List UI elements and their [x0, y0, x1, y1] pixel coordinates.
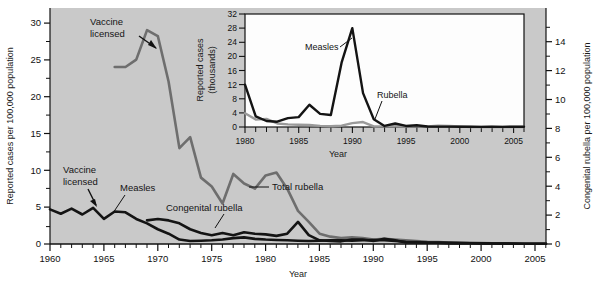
inset-y-axis-title-line1: Reported cases	[195, 38, 205, 102]
annot-congenital-rubella-label: Congenital rubella	[166, 202, 243, 213]
inset-y-tick-28: 28	[228, 23, 238, 33]
inset-y-tick-16: 16	[228, 66, 238, 76]
inset-y-tick-4: 4	[232, 108, 237, 118]
annot-inset-rubella-label: Rubella	[377, 90, 408, 100]
main-left-tick-5: 5	[36, 201, 41, 212]
main-x-axis-title: Year	[289, 269, 307, 279]
main-left-tick-15: 15	[30, 128, 41, 139]
main-right-tick-labels: 0 2 4 6 8 10 12 14	[555, 36, 566, 249]
main-left-axis-ticks	[44, 23, 50, 244]
annot-vaccine-bottom-line1: Vaccine	[63, 164, 96, 175]
main-x-tick-1965: 1965	[93, 253, 114, 264]
inset-y-tick-12: 12	[228, 80, 238, 90]
main-x-tick-2000: 2000	[471, 253, 492, 264]
main-x-tick-1995: 1995	[417, 253, 438, 264]
main-x-tick-1975: 1975	[201, 253, 222, 264]
main-right-axis-title: Congenital rubella per 100,000 populatio…	[582, 42, 592, 209]
inset-y-tick-32: 32	[228, 9, 238, 19]
inset-x-tick-1990: 1990	[343, 136, 362, 146]
inset-y-tick-20: 20	[228, 51, 238, 61]
annot-measles-label: Measles	[120, 182, 156, 193]
inset-plot-background	[245, 14, 524, 127]
main-right-tick-14: 14	[555, 36, 566, 47]
main-right-tick-10: 10	[555, 94, 566, 105]
main-x-tick-1990: 1990	[363, 253, 384, 264]
inset-x-tick-1985: 1985	[289, 136, 308, 146]
main-right-tick-12: 12	[555, 65, 566, 76]
main-x-tick-1985: 1985	[309, 253, 330, 264]
inset-x-tick-2000: 2000	[450, 136, 469, 146]
inset-y-tick-8: 8	[232, 94, 237, 104]
main-x-axis-ticks	[50, 244, 546, 251]
main-left-tick-10: 10	[30, 165, 41, 176]
chart-svg: 0 5 10 15 20 25 30 Reported cases per 10…	[0, 0, 598, 283]
annot-vaccine-top-line1: Vaccine	[90, 16, 123, 27]
inset-y-axis-title-line2: (thousands)	[207, 46, 217, 94]
inset-x-tick-2005: 2005	[504, 136, 523, 146]
main-x-tick-1980: 1980	[255, 253, 276, 264]
main-x-tick-1970: 1970	[147, 253, 168, 264]
annot-total-rubella-label: Total rubella	[272, 181, 324, 192]
annot-vaccine-bottom-line2: licensed	[63, 176, 98, 187]
inset-y-tick-24: 24	[228, 37, 238, 47]
main-left-tick-25: 25	[30, 54, 41, 65]
main-right-tick-4: 4	[555, 181, 560, 192]
main-right-tick-2: 2	[555, 209, 560, 220]
main-right-axis-ticks	[546, 27, 552, 244]
main-x-tick-2005: 2005	[524, 253, 545, 264]
main-right-tick-6: 6	[555, 152, 560, 163]
annot-inset-measles-label: Measles	[305, 42, 339, 52]
main-x-tick-1960: 1960	[39, 253, 60, 264]
main-right-tick-0: 0	[555, 238, 560, 249]
main-left-tick-labels: 0 5 10 15 20 25 30	[30, 17, 41, 249]
main-left-tick-30: 30	[30, 17, 41, 28]
inset-y-tick-0: 0	[232, 122, 237, 132]
main-left-tick-20: 20	[30, 91, 41, 102]
inset-x-tick-1980: 1980	[236, 136, 255, 146]
inset-x-axis-title: Year	[329, 149, 347, 159]
main-left-axis-title: Reported cases per 100,000 population	[5, 47, 15, 205]
inset-x-tick-1995: 1995	[397, 136, 416, 146]
main-right-tick-8: 8	[555, 123, 560, 134]
main-x-tick-labels: 1960 1965 1970 1975 1980 1985 1990 1995 …	[39, 253, 545, 264]
figure-container: 0 5 10 15 20 25 30 Reported cases per 10…	[0, 0, 598, 283]
annot-vaccine-top-line2: licensed	[90, 28, 125, 39]
main-left-tick-0: 0	[36, 238, 41, 249]
